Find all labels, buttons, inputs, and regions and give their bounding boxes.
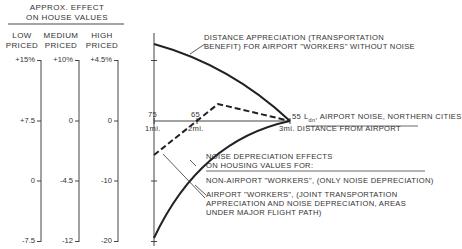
annotation-line: ON HOUSING VALUES FOR:	[206, 161, 333, 170]
noise-tick-65: 65	[191, 110, 200, 119]
annotation-line: DISTANCE APPRECIATION (TRANSPORTATION	[204, 33, 415, 42]
annotation-distance-appreciation: DISTANCE APPRECIATION (TRANSPORTATION BE…	[204, 33, 415, 51]
annotation-airport-workers: AIRPORT "WORKERS", (JOINT TRANSPORTATION…	[206, 190, 406, 217]
distance-tick-3mi: 3mi.	[279, 124, 295, 133]
value-axes	[37, 60, 118, 242]
annotation-line: UNDER MAJOR FLIGHT PATH)	[206, 208, 406, 217]
noise-label-text: , AIRPORT NOISE, NORTHERN CITIES	[315, 112, 461, 121]
annotation-line: APPRECIATION AND NOISE DEPRECIATION, ARE…	[206, 199, 406, 208]
noise-tick-55: 55	[292, 112, 301, 121]
distance-appreciation-curve	[154, 44, 290, 121]
distance-tick-1mi: 1mi.	[145, 124, 161, 133]
airport-workers-dashed-curve	[154, 104, 290, 155]
annotation-non-airport: NON-AIRPORT "WORKERS", (ONLY NOISE DEPRE…	[206, 176, 434, 185]
noise-tick-75: 75	[148, 110, 157, 119]
distance-axis-label: 3mi. DISTANCE FROM AIRPORT	[279, 124, 401, 133]
annotation-line: AIRPORT "WORKERS", (JOINT TRANSPORTATION	[206, 190, 406, 199]
annotation-line: BENEFIT) FOR AIRPORT "WORKERS" WITHOUT N…	[204, 42, 415, 51]
annotation-noise-title: NOISE DEPRECIATION EFFECTS ON HOUSING VA…	[206, 152, 333, 170]
distance-tick-2mi: 2mi.	[188, 124, 204, 133]
distance-label-text: DISTANCE FROM AIRPORT	[295, 124, 401, 133]
annotation-line: NOISE DEPRECIATION EFFECTS	[206, 152, 333, 161]
noise-axis-label: Ldn, AIRPORT NOISE, NORTHERN CITIES	[304, 112, 462, 125]
